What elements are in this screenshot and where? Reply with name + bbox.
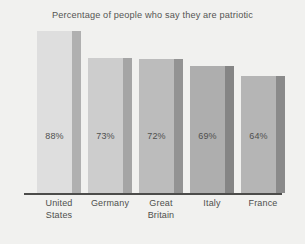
category-label-line2: States xyxy=(31,210,87,222)
bar-side-shadow xyxy=(72,31,81,193)
plot-area: 88%73%72%69%64% xyxy=(0,0,305,196)
bar-side-shadow xyxy=(123,58,132,193)
category-label-line1: United xyxy=(46,198,73,208)
category-label-line2: Britain xyxy=(133,210,189,222)
bar-side-shadow xyxy=(174,59,183,193)
category-label-line1: Italy xyxy=(203,198,220,208)
bar-france[interactable]: 64% xyxy=(241,76,285,193)
category-label-line1: France xyxy=(249,198,278,208)
category-label-united-states: UnitedStates xyxy=(31,198,87,221)
category-label-line1: Great xyxy=(149,198,172,208)
category-label-line1: Germany xyxy=(91,198,129,208)
bar-side-shadow xyxy=(225,66,234,193)
category-label-germany: Germany xyxy=(82,198,138,210)
bar-chart: Percentage of people who say they are pa… xyxy=(0,0,305,244)
category-label-france: France xyxy=(235,198,291,210)
category-label-italy: Italy xyxy=(184,198,240,210)
bar-united-states[interactable]: 88% xyxy=(37,31,81,193)
bar-side-shadow xyxy=(276,76,285,193)
bar-italy[interactable]: 69% xyxy=(190,66,234,193)
bar-germany[interactable]: 73% xyxy=(88,58,132,193)
category-axis-labels: UnitedStatesGermanyGreatBritainItalyFran… xyxy=(0,198,305,242)
x-axis-line xyxy=(24,193,282,195)
bar-great-britain[interactable]: 72% xyxy=(139,59,183,193)
category-label-great-britain: GreatBritain xyxy=(133,198,189,221)
